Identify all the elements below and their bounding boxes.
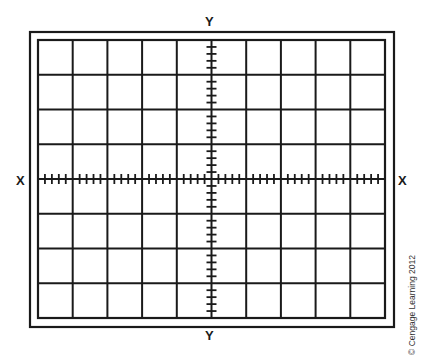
oscilloscope-graticule <box>0 0 432 359</box>
copyright-notice: © Cengage Learning 2012 <box>407 255 417 355</box>
x-axis-label-right: X <box>398 174 407 187</box>
y-axis-label-bottom: Y <box>205 329 214 342</box>
y-axis-label-top: Y <box>205 15 214 28</box>
x-axis-label-left: X <box>16 174 25 187</box>
